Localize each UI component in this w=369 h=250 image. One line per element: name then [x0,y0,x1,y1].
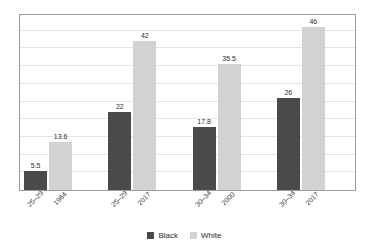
bar-series-container: 5.513.6224217.835.52646 [20,15,355,190]
bar-value-label: 42 [141,32,149,39]
legend-label: White [201,231,221,240]
bar-group: 2646 [277,15,325,190]
x-tick-label: 2017 [304,191,320,207]
x-tick-label: 1964 [52,191,68,207]
x-tick-label: 25–29 [25,189,44,208]
bar-rect[interactable] [218,64,241,190]
bar-value-label: 46 [309,18,317,25]
bar-value-label: 17.8 [197,118,211,125]
bar-chart: Percentages 5.513.6224217.835.52646 25–2… [0,0,369,250]
legend-label: Black [158,231,178,240]
legend-item-white[interactable]: White [190,231,221,240]
x-tick-label: 25–29 [110,189,129,208]
bar-value-label: 13.6 [54,133,68,140]
legend-swatch-icon [147,232,154,239]
bar-black[interactable]: 17.8 [193,15,216,190]
bar-rect[interactable] [277,98,300,190]
bar-white[interactable]: 35.5 [218,15,241,190]
bar-white[interactable]: 46 [302,15,325,190]
x-tick-label: 2000 [220,191,236,207]
bar-rect[interactable] [108,112,131,190]
bar-group: 17.835.5 [193,15,241,190]
plot-area: 5.513.6224217.835.52646 [19,14,356,191]
bar-value-label: 26 [284,89,292,96]
bar-black[interactable]: 5.5 [24,15,47,190]
bar-group: 2242 [108,15,156,190]
bar-rect[interactable] [24,171,47,190]
x-tick-label: 30–34 [194,189,213,208]
bar-rect[interactable] [133,41,156,190]
bar-black[interactable]: 26 [277,15,300,190]
bar-black[interactable]: 22 [108,15,131,190]
bar-value-label: 35.5 [222,55,236,62]
bar-rect[interactable] [193,127,216,190]
bar-value-label: 5.5 [31,162,41,169]
bar-white[interactable]: 13.6 [49,15,72,190]
legend-item-black[interactable]: Black [147,231,178,240]
x-axis-tick-labels: 25–29196425–29201730–34200030–342017 [19,192,356,228]
legend-swatch-icon [190,232,197,239]
legend: BlackWhite [0,231,369,240]
bar-group: 5.513.6 [24,15,72,190]
bar-rect[interactable] [302,27,325,190]
x-tick-label: 30–34 [278,189,297,208]
x-tick-label: 2017 [136,191,152,207]
bar-rect[interactable] [49,142,72,190]
bar-white[interactable]: 42 [133,15,156,190]
bar-value-label: 22 [116,103,124,110]
